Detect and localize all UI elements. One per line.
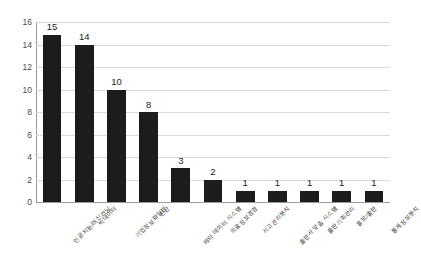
y-axis-tick-label: 14 (4, 40, 32, 49)
y-axis-tick-label: 16 (4, 18, 32, 27)
bar-value-label: 1 (243, 178, 248, 188)
bar-rect (171, 168, 190, 202)
bar-value-label: 1 (371, 178, 376, 188)
bar: 8 (139, 22, 158, 202)
bar-rect (43, 35, 62, 203)
bar-rect (268, 191, 287, 202)
bar-rect (236, 191, 255, 202)
bar: 1 (268, 22, 287, 202)
plot-area: 15141083211111 (36, 22, 390, 202)
bar-rect (139, 112, 158, 202)
bar-value-label: 8 (146, 100, 151, 110)
y-axis-tick-label: 2 (4, 175, 32, 184)
x-axis-category-label: 서고관리분석 (262, 205, 292, 235)
y-axis-tick-label: 0 (4, 198, 32, 207)
bar-rect (332, 191, 351, 202)
bar-value-label: 1 (307, 178, 312, 188)
bar: 3 (171, 22, 190, 202)
x-axis-category-label: 홍보/출판 (355, 205, 378, 228)
bar: 14 (75, 22, 94, 202)
bar-rect (365, 191, 384, 202)
x-axis-category-labels: 인공지능/머신러닝빅데이터기업정보화일반전산메타 데이터 시스템의료정보경영서고… (36, 205, 390, 277)
gridline (36, 202, 390, 203)
bar-value-label: 1 (339, 178, 344, 188)
bar-rect (107, 90, 126, 203)
y-axis-tick-label: 12 (4, 63, 32, 72)
bar-value-label: 10 (111, 77, 122, 87)
bar: 1 (236, 22, 255, 202)
y-axis-tick-label: 10 (4, 85, 32, 94)
bar: 1 (332, 22, 351, 202)
y-axis-tick-label: 6 (4, 130, 32, 139)
bar-rect (300, 191, 319, 202)
bar-rect (75, 45, 94, 203)
y-axis-tick-label: 4 (4, 153, 32, 162)
x-axis-category-label: 통계정보분석 (390, 205, 420, 235)
bar-value-label: 2 (210, 167, 215, 177)
y-axis-tick-labels: 1614121086420 (0, 22, 32, 202)
bar: 1 (300, 22, 319, 202)
bar-value-label: 1 (275, 178, 280, 188)
y-axis-tick-label: 8 (4, 108, 32, 117)
bar: 1 (365, 22, 384, 202)
bar-value-label: 15 (47, 22, 58, 32)
bar: 15 (43, 22, 62, 202)
bar-value-label: 3 (178, 156, 183, 166)
bar-rect (204, 180, 223, 203)
bar: 2 (204, 22, 223, 202)
bar-value-label: 14 (79, 32, 90, 42)
bar: 10 (107, 22, 126, 202)
